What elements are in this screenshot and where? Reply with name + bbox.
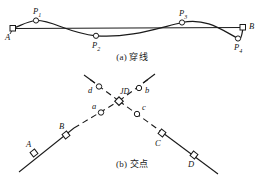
label-B-panel-b: B — [59, 122, 64, 131]
line-segment-c-dashed — [119, 101, 163, 133]
label-P3-sub: 3 — [184, 14, 187, 20]
label-b: b — [145, 86, 149, 95]
label-d: d — [88, 86, 92, 95]
label-JD: JD — [120, 88, 129, 96]
label-P1: P1 — [33, 7, 41, 18]
point-marker-P2 — [93, 33, 98, 38]
point-marker-P1 — [33, 18, 38, 23]
line-segment-a-dashed — [74, 101, 119, 128]
label-B-panel-a: B — [249, 22, 254, 31]
point-marker-b — [136, 85, 141, 90]
label-a: a — [92, 102, 96, 111]
label-A-panel-a: A — [5, 33, 10, 42]
station-marker-C — [158, 129, 166, 137]
threaded-curve — [13, 20, 243, 39]
label-C-panel-b: C — [155, 139, 161, 148]
point-marker-d — [96, 84, 101, 89]
label-A-panel-b: A — [26, 140, 31, 149]
caption-panel-a: (a) 穿线 — [0, 50, 264, 63]
point-marker-c — [134, 111, 139, 116]
ray-b-solid-tip — [143, 74, 155, 83]
figure-container: P1 P2 P3 P4 A B (a) 穿线 — [0, 0, 264, 180]
label-c: c — [142, 103, 146, 112]
label-P3: P3 — [179, 9, 187, 20]
endpoint-marker-B — [240, 25, 246, 31]
ray-d-solid-tip — [84, 75, 95, 83]
station-marker-A — [30, 149, 38, 157]
point-marker-a — [98, 110, 103, 115]
point-marker-P4 — [235, 36, 240, 41]
caption-panel-b: (b) 交点 — [0, 157, 264, 170]
baseline-AB — [13, 28, 243, 29]
label-P1-sub: 1 — [38, 12, 41, 18]
point-marker-P3 — [179, 20, 184, 25]
endpoint-marker-A — [10, 26, 16, 32]
